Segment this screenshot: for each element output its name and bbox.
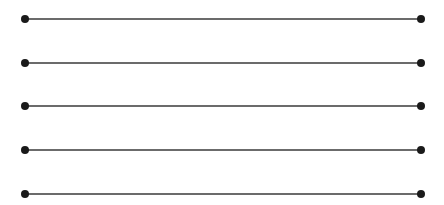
left-endpoint-dot (21, 146, 29, 154)
right-endpoint-dot (417, 15, 425, 23)
line-segments-diagram (0, 0, 444, 205)
segment-row (21, 102, 425, 110)
right-endpoint-dot (417, 59, 425, 67)
segment-row (21, 190, 425, 198)
left-endpoint-dot (21, 102, 29, 110)
left-endpoint-dot (21, 15, 29, 23)
right-endpoint-dot (417, 190, 425, 198)
right-endpoint-dot (417, 146, 425, 154)
left-endpoint-dot (21, 59, 29, 67)
right-endpoint-dot (417, 102, 425, 110)
segment-row (21, 15, 425, 23)
segment-row (21, 146, 425, 154)
left-endpoint-dot (21, 190, 29, 198)
segment-row (21, 59, 425, 67)
